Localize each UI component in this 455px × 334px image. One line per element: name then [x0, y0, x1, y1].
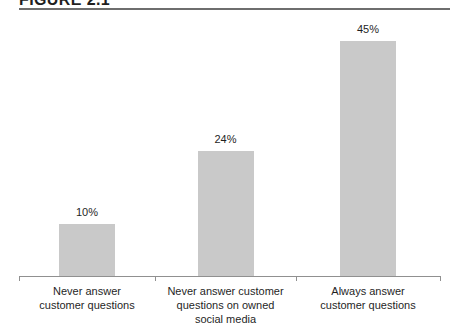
bar-value-label: 24% — [214, 133, 236, 146]
bar-3 — [340, 41, 396, 276]
x-axis-tick — [19, 276, 20, 281]
category-label-1: Never answercustomer questions — [7, 284, 167, 312]
figure-page: FIGURE 2.1 10%Never answercustomer quest… — [0, 0, 455, 334]
x-axis-tick — [155, 276, 156, 281]
bar-chart: 10%Never answercustomer questions24%Neve… — [0, 0, 455, 334]
bar-2 — [198, 151, 254, 276]
x-axis-line — [19, 276, 441, 277]
bar-1 — [59, 224, 115, 276]
bar-value-label: 10% — [76, 206, 98, 219]
category-label-line: Never answer — [7, 284, 167, 298]
category-label-line: customer questions — [288, 298, 448, 312]
category-label-3: Always answercustomer questions — [288, 284, 448, 312]
category-label-line: Always answer — [288, 284, 448, 298]
category-label-2: Never answer customerquestions on owneds… — [146, 284, 306, 326]
x-axis-tick — [440, 276, 441, 281]
bar-group-1: 10% — [22, 206, 152, 276]
bar-group-3: 45% — [303, 23, 433, 276]
bar-value-label: 45% — [357, 23, 379, 36]
category-label-line: Never answer customer — [146, 284, 306, 298]
category-label-line: customer questions — [7, 298, 167, 312]
x-axis-tick — [296, 276, 297, 281]
category-label-line: questions on owned — [146, 298, 306, 312]
category-label-line: social media — [146, 312, 306, 326]
bar-group-2: 24% — [161, 133, 291, 276]
